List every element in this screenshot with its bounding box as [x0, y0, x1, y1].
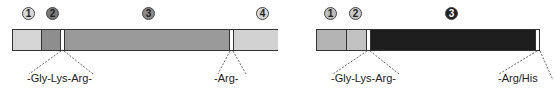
- cleavage-connector-lines: [0, 0, 556, 94]
